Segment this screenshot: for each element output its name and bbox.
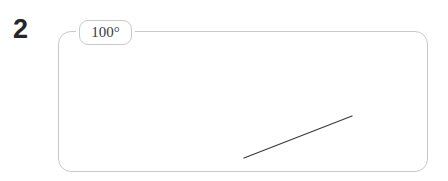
item-number-label: 2 (13, 13, 43, 45)
angle-badge[interactable]: 100° (79, 20, 132, 45)
diagram-frame[interactable] (58, 31, 428, 172)
angle-badge-value: 100° (91, 25, 120, 40)
diagram-canvas: 2 100° (0, 0, 448, 181)
